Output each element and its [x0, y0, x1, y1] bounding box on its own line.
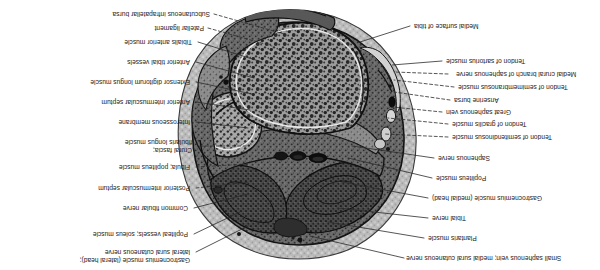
label-posterior-intermuscular-septum: Posterior intermuscular septum	[10, 184, 190, 192]
label-gastrocnemius-lateral-head: Gastrocnemius muscle (lateral head); lat…	[4, 249, 190, 264]
label-medial-surface-tibia: Medial surface of tibia	[414, 22, 500, 30]
label-tendon-gracilis: Tendon of gracilis muscle	[452, 120, 594, 128]
leader-tibial-nerve	[338, 208, 428, 218]
label-tendon-semimembranosus: Tendon of semimembranosus muscle	[458, 83, 596, 91]
leader-gastrocnemius-medial-head	[342, 182, 428, 198]
leader-popliteal-vessels-soleus	[194, 212, 240, 234]
leader-medial-crural-branch	[394, 72, 448, 74]
leader-tendon-gracilis	[388, 118, 448, 124]
leader-extensor-digitorum-longus	[196, 82, 252, 94]
leader-tendon-semimembranosus	[394, 80, 454, 87]
label-tendon-sartorius: Tendon of sartorius muscle	[446, 57, 594, 65]
leader-plantaris-muscle	[328, 222, 424, 238]
leader-great-saphenous-vein	[392, 107, 442, 112]
label-common-fibular-nerve: Common fibular nerve	[18, 204, 188, 212]
leader-posterior-intermuscular-septum	[196, 182, 250, 188]
label-anterior-tibial-vessels: Anterior tibial vessels	[24, 58, 190, 66]
leader-medial-surface-tibia	[360, 26, 410, 42]
label-popliteal-vessels-soleus: Popliteal vessels; soleus muscle	[8, 230, 188, 238]
leader-anterior-tibial-vessels	[196, 62, 254, 78]
label-saphenous-nerve: Saphenous nerve	[438, 154, 586, 162]
label-tibialis-anterior-muscle: Tibialis anterior muscle	[22, 38, 192, 46]
label-crural-fascia-fibularis: Crural fascia; fibularis longus muscle	[32, 139, 192, 154]
label-interosseous-membrane: Interosseous membrane	[20, 118, 190, 126]
leader-tendon-sartorius	[392, 61, 442, 65]
leader-anserine-bursa	[394, 92, 450, 100]
label-tibial-nerve: Tibial nerve	[432, 214, 586, 222]
label-great-saphenous-vein: Great saphenous vein	[446, 108, 594, 116]
label-tendon-semitendinosus: Tendon of semitendinosus muscle	[452, 133, 594, 141]
leader-fibula-popliteus	[196, 164, 248, 167]
leader-subcutaneous-infrapatellar-bursa	[214, 14, 284, 34]
label-patellar-ligament: Patellar ligament	[44, 24, 204, 32]
leader-popliteus-muscle	[348, 158, 432, 178]
label-subcutaneous-infrapatellar-bursa: Subcutaneous infrapatellar bursa	[30, 10, 210, 18]
label-medial-crural-branch: Medial crural branch of saphenous nerve	[456, 70, 598, 78]
label-fibula-popliteus: Fibula; popliteus muscle	[24, 163, 190, 171]
leader-patellar-ligament	[208, 28, 272, 46]
label-small-saphenous-vein: Small saphenous vein; medial sural cutan…	[406, 254, 596, 262]
leader-gastrocnemius-lateral-head	[196, 226, 248, 252]
leader-interosseous-membrane	[196, 122, 248, 128]
label-gastrocnemius-medial-head: Gastrocnemius muscle (medial head)	[432, 194, 596, 202]
leader-tibialis-anterior-muscle	[198, 42, 262, 62]
leader-anterior-intermuscular-septum	[196, 102, 250, 110]
label-anserine-bursa: Anserine bursa	[454, 96, 594, 104]
label-anterior-intermuscular-septum: Anterior intermuscular septum	[10, 98, 190, 106]
anatomical-plate: Small saphenous vein; medial sural cutan…	[0, 0, 600, 270]
leader-tendon-semitendinosus	[384, 134, 448, 137]
leader-common-fibular-nerve	[194, 194, 248, 208]
leader-small-saphenous-vein	[310, 236, 404, 258]
label-extensor-digitorum-longus: Extensor digitorum longus muscle	[8, 78, 190, 86]
leader-saphenous-nerve	[352, 146, 434, 158]
label-popliteus-muscle: Popliteus muscle	[436, 174, 586, 182]
label-plantaris-muscle: Plantaris muscle	[428, 234, 586, 242]
